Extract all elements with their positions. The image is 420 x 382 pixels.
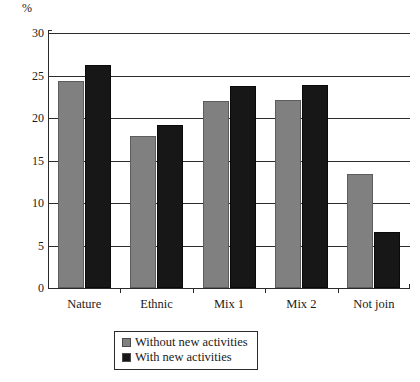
- bar: [275, 100, 301, 288]
- legend-label: With new activities: [135, 350, 232, 365]
- y-axis-tick-label: 0: [4, 282, 44, 294]
- plot-area: [48, 33, 410, 288]
- x-axis-category-label: Mix 2: [265, 296, 337, 312]
- bar: [157, 125, 183, 288]
- y-axis-tick-label: 30: [4, 27, 44, 39]
- x-axis-category-label: Mix 1: [193, 296, 265, 312]
- bar: [58, 81, 84, 288]
- bar-chart: % 051015202530 NatureEthnicMix 1Mix 2Not…: [0, 0, 420, 382]
- y-axis-tick-label: 20: [4, 112, 44, 124]
- bar: [130, 136, 156, 288]
- legend-label: Without new activities: [135, 335, 248, 350]
- legend-swatch-icon: [122, 338, 131, 347]
- bar: [347, 174, 373, 288]
- x-axis-tick: [193, 288, 194, 293]
- legend-item-with-new-activities: With new activities: [122, 350, 248, 365]
- x-axis-end-cap: [409, 284, 410, 289]
- legend-swatch-icon: [122, 353, 131, 362]
- y-axis-tick-label: 15: [4, 155, 44, 167]
- y-axis-tick-label: 25: [4, 70, 44, 82]
- bar: [203, 101, 229, 288]
- bar: [374, 232, 400, 288]
- y-axis-tick-label: 10: [4, 197, 44, 209]
- y-axis-unit-label: %: [22, 2, 32, 14]
- bar: [85, 65, 111, 288]
- x-axis-tick: [120, 288, 121, 293]
- y-axis-top-cap: [48, 30, 52, 31]
- x-axis-tick: [338, 288, 339, 293]
- bar: [302, 85, 328, 288]
- chart-legend: Without new activities With new activiti…: [114, 331, 258, 370]
- legend-item-without-new-activities: Without new activities: [122, 335, 248, 350]
- y-axis-tick-labels: 051015202530: [0, 33, 44, 288]
- bar: [230, 86, 256, 288]
- x-axis-line: [48, 288, 410, 289]
- x-axis-category-label: Ethnic: [120, 296, 192, 312]
- x-axis-category-label: Not join: [338, 296, 410, 312]
- x-axis-tick: [265, 288, 266, 293]
- x-axis-category-labels: NatureEthnicMix 1Mix 2Not join: [48, 296, 410, 316]
- gridline: [48, 33, 410, 34]
- x-axis-category-label: Nature: [48, 296, 120, 312]
- y-axis-tick-label: 5: [4, 240, 44, 252]
